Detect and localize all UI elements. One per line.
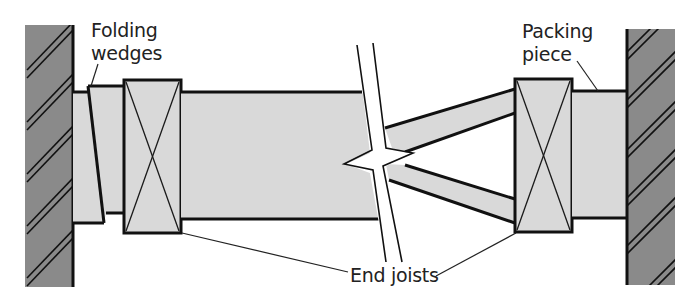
folding-wedges-label-line2: wedges	[91, 42, 162, 64]
timber-strutting-diagram: Folding wedges Packing piece End joists	[0, 0, 698, 306]
left-end-joist	[124, 80, 181, 233]
end-joists-leader-left	[182, 233, 348, 272]
right-end-joist	[515, 79, 572, 232]
folding-wedges-label-line1: Folding	[91, 19, 158, 41]
right-wall	[627, 22, 680, 290]
end-joists-label: End joists	[350, 264, 439, 286]
packing-piece-leader	[577, 61, 598, 91]
main-beam	[181, 92, 389, 219]
lower-raking-strut	[386, 164, 515, 223]
left-wall	[25, 22, 73, 287]
packing-piece-label-line1: Packing	[522, 20, 593, 42]
end-joists-leader-right	[436, 233, 516, 276]
folding-wedges-leader	[91, 64, 98, 86]
upper-raking-strut	[385, 89, 515, 152]
packing-piece-label-line2: piece	[522, 43, 572, 65]
packing-piece	[572, 91, 628, 218]
